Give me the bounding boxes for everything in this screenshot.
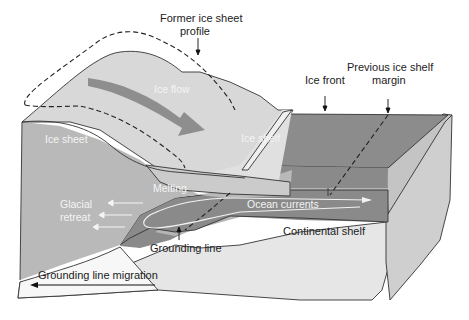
- label-previous-margin-2: margin: [372, 74, 406, 86]
- label-grounding-line: Grounding line: [150, 242, 222, 254]
- label-ocean-currents: Ocean currents: [247, 198, 319, 210]
- label-melting: Melting: [153, 182, 187, 194]
- label-former-profile-2: profile: [180, 25, 210, 37]
- label-continental-shelf: Continental shelf: [283, 225, 366, 237]
- ice-shelf-diagram: Former ice sheet profile Ice front Previ…: [0, 0, 469, 320]
- label-previous-margin-1: Previous ice shelf: [347, 61, 434, 73]
- label-ice-sheet: Ice sheet: [45, 133, 88, 145]
- label-glacial-1: Glacial: [60, 198, 92, 210]
- label-ice-flow: Ice flow: [154, 83, 190, 95]
- label-ice-shelf: Ice shelf: [241, 132, 280, 144]
- label-glacial-2: retreat: [60, 211, 90, 223]
- label-former-profile-1: Former ice sheet: [160, 12, 243, 24]
- label-ice-front: Ice front: [305, 74, 345, 86]
- label-grounding-migration: Grounding line migration: [38, 269, 158, 281]
